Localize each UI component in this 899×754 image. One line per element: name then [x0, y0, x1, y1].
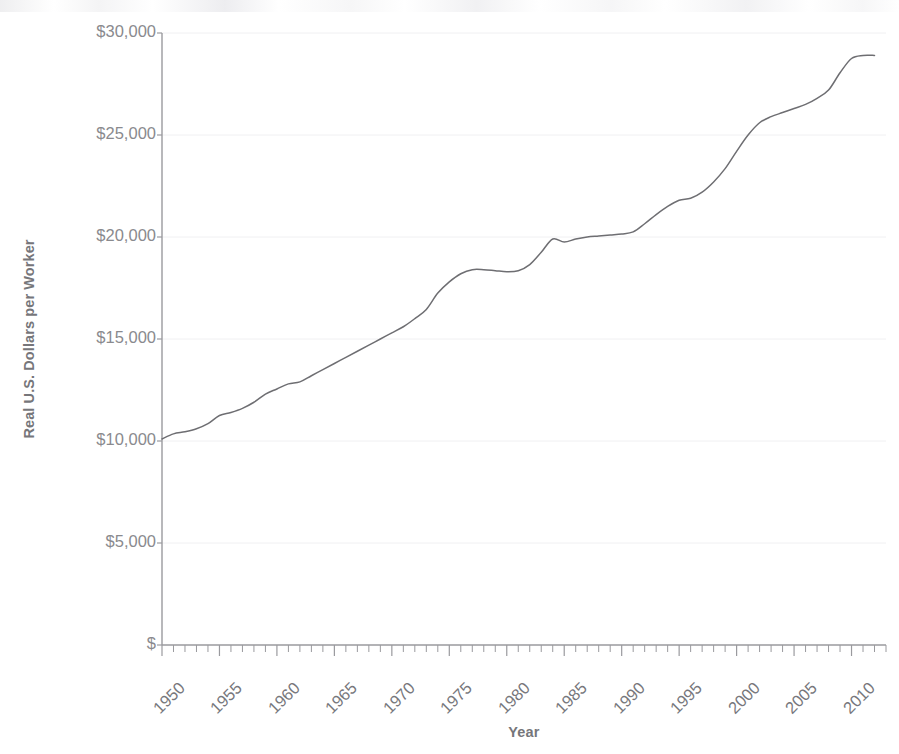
chart-figure: Real U.S. Dollars per Worker $30,000$25,…: [0, 0, 899, 754]
gridlines: [162, 33, 886, 543]
y-axis-ticks: [157, 33, 162, 645]
data-series-line: [162, 55, 875, 439]
x-axis-minor-ticks: [173, 645, 886, 652]
plot-area: [0, 0, 899, 754]
